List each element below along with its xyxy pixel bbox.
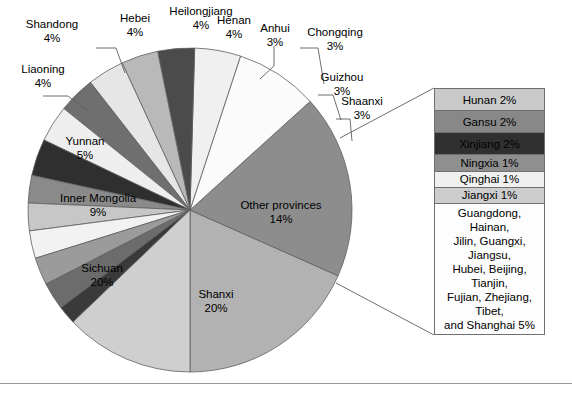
pie-label-liaoning-pct: 4% xyxy=(0,77,86,91)
pie-label-inner-mongolia-pct: 9% xyxy=(37,206,159,220)
pie-label-liaoning: Liaoning 4% xyxy=(0,63,86,90)
pie-label-chongqing-pct: 3% xyxy=(296,40,374,54)
bottom-divider-rule xyxy=(0,383,572,384)
legend-cell-qinghai[interactable]: Qinghai 1% xyxy=(435,172,544,188)
breakout-legend-box: Hunan 2%Gansu 2%Xinjiang 2%Ningxia 1%Qin… xyxy=(434,88,545,335)
callout-connector-bottom xyxy=(336,283,434,335)
pie-label-shanxi-pct: 20% xyxy=(180,302,252,316)
pie-label-sichuan-pct: 20% xyxy=(62,276,142,290)
legend-cell-xinjiang[interactable]: Xinjiang 2% xyxy=(435,133,544,155)
pie-label-chongqing: Chongqing 3% xyxy=(296,26,374,53)
legend-note-text: Guangdong, Hainan,Jilin, Guangxi, Jiangs… xyxy=(441,206,538,332)
pie-label-yunnan-name: Yunnan xyxy=(49,135,121,149)
pie-label-shaanxi-pct: 3% xyxy=(330,109,394,123)
pie-label-other-provinces-name: Other provinces xyxy=(225,199,337,213)
pie-label-shandong-pct: 4% xyxy=(0,32,104,46)
pie-label-inner-mongolia: Inner Mongolia 9% xyxy=(37,192,159,219)
pie-label-yunnan: Yunnan 5% xyxy=(49,135,121,162)
pie-label-shandong-name: Shandong xyxy=(0,18,104,32)
pie-label-shaanxi: Shaanxi 3% xyxy=(330,95,394,122)
legend-cell-label-xinjiang: Xinjiang 2% xyxy=(459,138,520,150)
pie-label-shanxi-name: Shanxi xyxy=(180,288,252,302)
chart-canvas: Shandong 4% Liaoning 4% Hebei 4% Heilong… xyxy=(0,0,572,395)
legend-cell-jiangxi[interactable]: Jiangxi 1% xyxy=(435,188,544,204)
pie-label-inner-mongolia-name: Inner Mongolia xyxy=(37,192,159,206)
legend-cell-label-qinghai: Qinghai 1% xyxy=(460,173,519,185)
legend-cell-hunan[interactable]: Hunan 2% xyxy=(435,89,544,111)
legend-cell-label-jiangxi: Jiangxi 1% xyxy=(462,189,518,201)
legend-cell-label-ningxia: Ningxia 1% xyxy=(460,157,518,169)
pie-label-yunnan-pct: 5% xyxy=(49,149,121,163)
pie-label-sichuan-name: Sichuan xyxy=(62,262,142,276)
pie-label-anhui-name: Anhui xyxy=(249,22,301,36)
pie-label-chongqing-name: Chongqing xyxy=(296,26,374,40)
legend-cell-ningxia[interactable]: Ningxia 1% xyxy=(435,155,544,171)
legend-cell-gansu[interactable]: Gansu 2% xyxy=(435,111,544,133)
pie-label-shaanxi-name: Shaanxi xyxy=(330,95,394,109)
legend-cell-label-hunan: Hunan 2% xyxy=(463,94,517,106)
legend-note-other-combined: Guangdong, Hainan,Jilin, Guangxi, Jiangs… xyxy=(435,204,544,334)
pie-label-anhui: Anhui 3% xyxy=(249,22,301,49)
leader-line-shaanxi xyxy=(336,119,352,141)
pie-label-shandong: Shandong 4% xyxy=(0,18,104,45)
pie-label-guizhou-name: Guizhou xyxy=(310,71,374,85)
pie-label-anhui-pct: 3% xyxy=(249,36,301,50)
legend-cell-label-gansu: Gansu 2% xyxy=(463,116,517,128)
pie-label-other-provinces-pct: 14% xyxy=(225,213,337,227)
pie-label-other-provinces: Other provinces 14% xyxy=(225,199,337,226)
pie-label-liaoning-name: Liaoning xyxy=(0,63,86,77)
pie-label-shanxi: Shanxi 20% xyxy=(180,288,252,315)
pie-label-guizhou: Guizhou 3% xyxy=(310,71,374,98)
pie-label-sichuan: Sichuan 20% xyxy=(62,262,142,289)
